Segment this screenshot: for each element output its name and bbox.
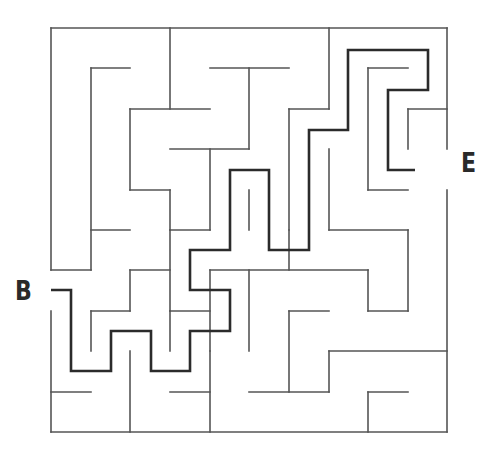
maze-board [0,0,498,454]
end-label: E [461,150,476,176]
solution-path [51,50,428,371]
start-label: B [15,278,32,304]
